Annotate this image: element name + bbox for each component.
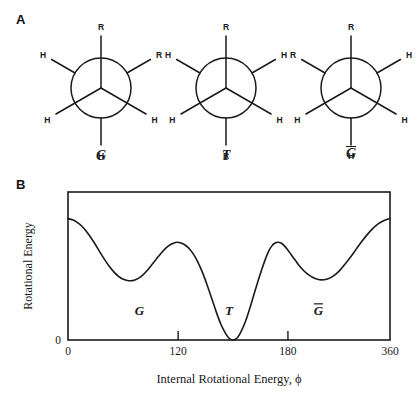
back-bond-upper-right bbox=[377, 60, 400, 74]
panel-b: B 01201803600Rotational EnergyInternal R… bbox=[0, 175, 420, 393]
atom-label-r: R bbox=[348, 22, 354, 32]
atom-label-h: H bbox=[281, 50, 287, 60]
atom-label-h: H bbox=[44, 115, 50, 125]
plot-annotation-g-bar: G bbox=[314, 303, 324, 318]
y-axis-title: Rotational Energy bbox=[21, 222, 35, 309]
atom-label-r: R bbox=[156, 50, 162, 60]
energy-curve bbox=[68, 219, 390, 340]
rotational-energy-chart: 01201803600Rotational EnergyInternal Rot… bbox=[0, 175, 420, 393]
atom-label-h: H bbox=[152, 115, 158, 125]
back-bond-upper-left bbox=[177, 60, 200, 74]
atom-label-h: H bbox=[165, 50, 171, 60]
atom-label-h: H bbox=[294, 115, 300, 125]
x-tick-label-120: 120 bbox=[169, 345, 187, 357]
front-bond-lower-left bbox=[306, 88, 351, 114]
atom-label-h: H bbox=[277, 115, 283, 125]
atom-label-r: R bbox=[223, 22, 229, 32]
panel-a-letter: A bbox=[16, 12, 25, 27]
overline-wrapper: G bbox=[346, 146, 356, 162]
plot-annotation-t: T bbox=[225, 303, 234, 318]
chart-text-layer: 01201803600Rotational EnergyInternal Rot… bbox=[21, 222, 399, 386]
atom-label-h: H bbox=[169, 115, 175, 125]
conformer-label-trans: T bbox=[206, 148, 246, 164]
back-bond-upper-left bbox=[302, 60, 325, 74]
y-tick-label-0: 0 bbox=[55, 334, 61, 346]
atom-label-h: H bbox=[40, 50, 46, 60]
atom-label-h: H bbox=[402, 115, 408, 125]
x-tick-label-180: 180 bbox=[279, 345, 297, 357]
x-tick-label-0: 0 bbox=[65, 345, 71, 357]
conformer-label-gauche: G bbox=[81, 148, 121, 164]
x-tick-label-360: 360 bbox=[381, 345, 399, 357]
front-bond-lower-left bbox=[181, 88, 226, 114]
front-bond-lower-right bbox=[226, 88, 271, 114]
panel-b-letter: B bbox=[16, 177, 25, 192]
front-bond-lower-right bbox=[351, 88, 396, 114]
atom-label-h: H bbox=[406, 50, 412, 60]
atom-label-r: R bbox=[290, 50, 296, 60]
front-bond-lower-left bbox=[56, 88, 101, 114]
front-bond-lower-right bbox=[101, 88, 146, 114]
plot-annotation-g: G bbox=[135, 303, 145, 318]
conformer-label-gauche-bar: G bbox=[331, 146, 371, 162]
x-axis-title: Internal Rotational Energy, ϕ bbox=[156, 372, 302, 386]
x-axis-ticks bbox=[178, 331, 288, 340]
atom-label-r: R bbox=[98, 22, 104, 32]
back-bond-upper-right bbox=[127, 60, 150, 74]
back-bond-upper-right bbox=[252, 60, 275, 74]
back-bond-upper-left bbox=[52, 60, 75, 74]
panel-a: A HRHRHHHHRRHHRHHRHH G T G bbox=[0, 0, 420, 175]
